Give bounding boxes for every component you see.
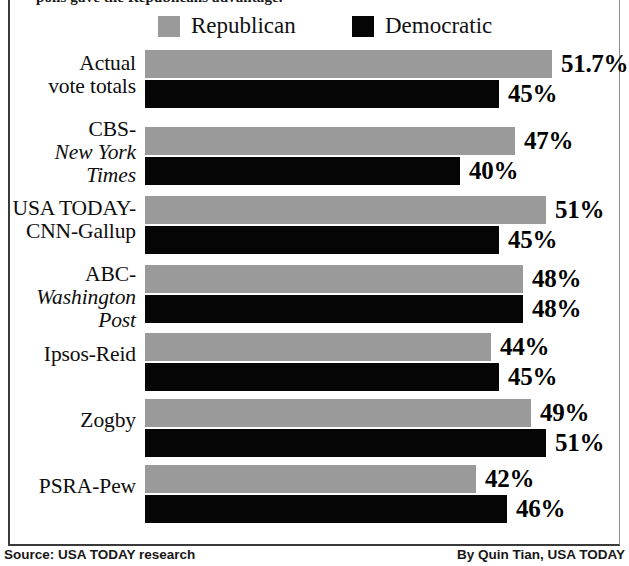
bar-value-republican: 48% [532, 265, 581, 293]
category-label-line: CNN-Gallup [0, 220, 136, 243]
bar-value-democratic: 45% [508, 226, 557, 254]
category-label-line: Ipsos-Reid [0, 343, 136, 366]
bar-value-republican: 42% [485, 465, 534, 493]
category-label: Zogby [0, 409, 136, 432]
category-label-line: New York [0, 141, 136, 164]
category-label-line: Actual [0, 52, 136, 75]
bar-republican [145, 196, 546, 224]
bar-value-republican: 51% [555, 196, 604, 224]
chart-footer: Source: USA TODAY research By Quin Tian,… [0, 547, 629, 566]
bar-value-democratic: 48% [532, 295, 581, 323]
category-label-line: USA TODAY- [0, 197, 136, 220]
bar-value-republican: 44% [500, 333, 549, 361]
footer-source: Source: USA TODAY research [4, 547, 195, 562]
category-label-line: CBS- [0, 118, 136, 141]
category-label-line: PSRA-Pew [0, 475, 136, 498]
category-label: ABC-WashingtonPost [0, 263, 136, 332]
bar-value-republican: 47% [524, 127, 573, 155]
category-label: PSRA-Pew [0, 475, 136, 498]
bar-republican [145, 465, 476, 493]
bar-republican [145, 127, 515, 155]
category-label: Actualvote totals [0, 52, 136, 98]
category-label-line: Times [0, 164, 136, 187]
bar-democratic [145, 429, 546, 457]
category-label: CBS-New YorkTimes [0, 118, 136, 187]
bar-republican [145, 50, 552, 78]
bar-republican [145, 399, 531, 427]
category-label-line: vote totals [0, 75, 136, 98]
chart-root: polls gave the Republicans advantage. Re… [0, 0, 629, 566]
bar-value-republican: 49% [540, 399, 589, 427]
category-label-line: ABC- [0, 263, 136, 286]
bar-democratic [145, 157, 460, 185]
bar-value-democratic: 45% [508, 363, 557, 391]
footer-credit: By Quin Tian, USA TODAY [457, 547, 625, 562]
bar-value-democratic: 51% [555, 429, 604, 457]
category-label: USA TODAY-CNN-Gallup [0, 197, 136, 243]
bar-democratic [145, 80, 499, 108]
bar-republican [145, 333, 491, 361]
category-label: Ipsos-Reid [0, 343, 136, 366]
bar-value-democratic: 40% [469, 157, 518, 185]
bar-value-democratic: 45% [508, 80, 557, 108]
plot-area: Actualvote totals51.7%45%CBS-New YorkTim… [0, 0, 629, 546]
category-label-line: Washington [0, 286, 136, 309]
bar-value-democratic: 46% [516, 495, 565, 523]
bar-democratic [145, 295, 523, 323]
category-label-line: Post [0, 309, 136, 332]
bar-democratic [145, 363, 499, 391]
bar-value-republican: 51.7% [561, 50, 628, 78]
category-label-line: Zogby [0, 409, 136, 432]
bar-democratic [145, 226, 499, 254]
bar-democratic [145, 495, 507, 523]
bar-republican [145, 265, 523, 293]
